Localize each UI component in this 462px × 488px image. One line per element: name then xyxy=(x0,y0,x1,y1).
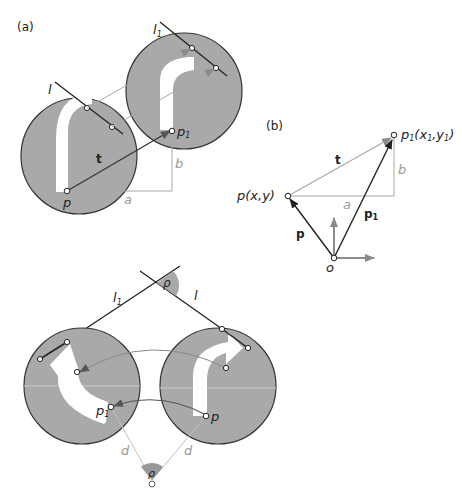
label-l: l xyxy=(48,82,52,97)
line-point xyxy=(37,356,42,361)
label-l1: l1 xyxy=(153,22,162,39)
label-t: t xyxy=(335,153,341,167)
line-point xyxy=(213,65,218,70)
panel-a: (a) l l1 t a b xyxy=(17,20,242,214)
label-p: p xyxy=(210,409,219,424)
line-point xyxy=(223,365,228,370)
panel-b: (b) t a b p p1 p(x,y) p1(x1,y1) o xyxy=(236,119,454,275)
disc-rotated xyxy=(24,328,140,444)
label-l1: l1 xyxy=(113,290,122,307)
vector-t xyxy=(288,138,391,196)
point-p1 xyxy=(169,128,175,134)
label-a: a xyxy=(343,197,351,212)
label-p: p xyxy=(62,195,71,210)
panel-a-label: (a) xyxy=(17,20,34,34)
geometry-transform-diagram: (a) l l1 t a b xyxy=(0,0,462,488)
label-p-xy: p(x,y) xyxy=(236,188,275,203)
line-point xyxy=(189,45,194,50)
line-point xyxy=(74,369,79,374)
point-p xyxy=(64,188,70,194)
label-a: a xyxy=(124,192,132,207)
label-p1-xy: p1(x1,y1) xyxy=(400,127,454,143)
label-origin: o xyxy=(326,260,334,275)
label-b: b xyxy=(398,162,406,177)
disc-original xyxy=(160,328,276,444)
disc-original xyxy=(21,84,137,214)
label-angle-bottom: ρ xyxy=(148,467,155,480)
label-angle-top: ρ xyxy=(163,276,171,290)
label-b: b xyxy=(175,156,183,171)
panel-b-label: (b) xyxy=(266,119,283,133)
point-p1 xyxy=(391,132,397,138)
point-p xyxy=(285,193,291,199)
panel-c: ρ l1 l d d xyxy=(24,266,276,487)
label-vector-p: p xyxy=(296,227,305,241)
label-vector-p1: p1 xyxy=(364,207,379,222)
label-d-left: d xyxy=(121,443,130,458)
point-p1 xyxy=(108,404,114,410)
label-d-right: d xyxy=(184,443,193,458)
point-p xyxy=(203,413,209,419)
line-point xyxy=(64,339,69,344)
label-t: t xyxy=(96,152,102,166)
label-l: l xyxy=(194,288,198,303)
rotation-center xyxy=(149,481,155,487)
line-point xyxy=(245,345,250,350)
line-point xyxy=(219,326,224,331)
